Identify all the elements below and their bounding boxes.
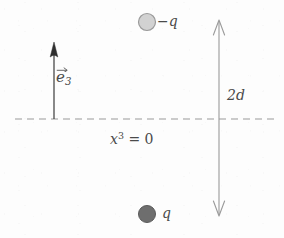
e3-label-base: e <box>56 68 65 86</box>
figure-canvas: e3 −q q 2d x3 = 0 <box>0 0 284 238</box>
separation-label: 2d <box>227 88 245 102</box>
e3-glyph: e3 <box>56 70 71 87</box>
positive-charge-disc <box>139 206 156 223</box>
e3-vector-label: e3 <box>56 70 71 87</box>
e3-label-subscript: 3 <box>65 76 71 87</box>
plane-equation-base: x <box>110 131 118 147</box>
plane-equation-label: x3 = 0 <box>110 131 154 146</box>
positive-charge-label: q <box>162 206 171 220</box>
negative-charge-disc <box>139 14 156 31</box>
e3-arrowhead-icon <box>50 42 58 57</box>
figure-svg <box>0 0 284 238</box>
plane-equation-rhs: = 0 <box>124 131 154 147</box>
negative-charge-label: −q <box>157 14 178 28</box>
